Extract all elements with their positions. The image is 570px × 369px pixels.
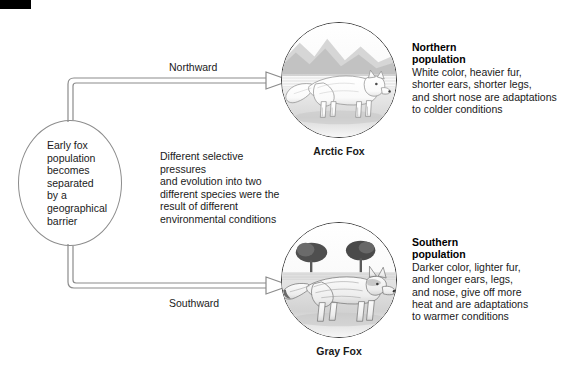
northern-population-heading: Northern population xyxy=(412,41,570,66)
arctic-fox-caption: Arctic Fox xyxy=(281,145,397,157)
southern-population-body: Darker color, lighter fur, and longer ea… xyxy=(412,261,570,323)
southward-connector xyxy=(68,244,290,294)
northward-arrow-label: Northward xyxy=(169,61,217,73)
diagram-canvas: .dbl { fill: none; stroke: #8c8c8c; stro… xyxy=(0,0,570,369)
northern-population-block: Northern population White color, heavier… xyxy=(412,41,570,115)
northern-population-body: White color, heavier fur, shorter ears, … xyxy=(412,66,570,116)
southern-population-heading: Southern population xyxy=(412,236,570,261)
southward-arrow-label: Southward xyxy=(169,297,219,309)
gray-fox-caption: Gray Fox xyxy=(281,345,397,357)
selective-pressure-note: Different selective pressures and evolut… xyxy=(160,150,285,226)
gray-fox-illustration xyxy=(281,222,397,338)
southern-population-block: Southern population Darker color, lighte… xyxy=(412,236,570,323)
arctic-fox-illustration xyxy=(281,22,397,138)
northward-connector xyxy=(68,72,290,122)
origin-population-text: Early fox population becomes separated b… xyxy=(47,139,139,227)
